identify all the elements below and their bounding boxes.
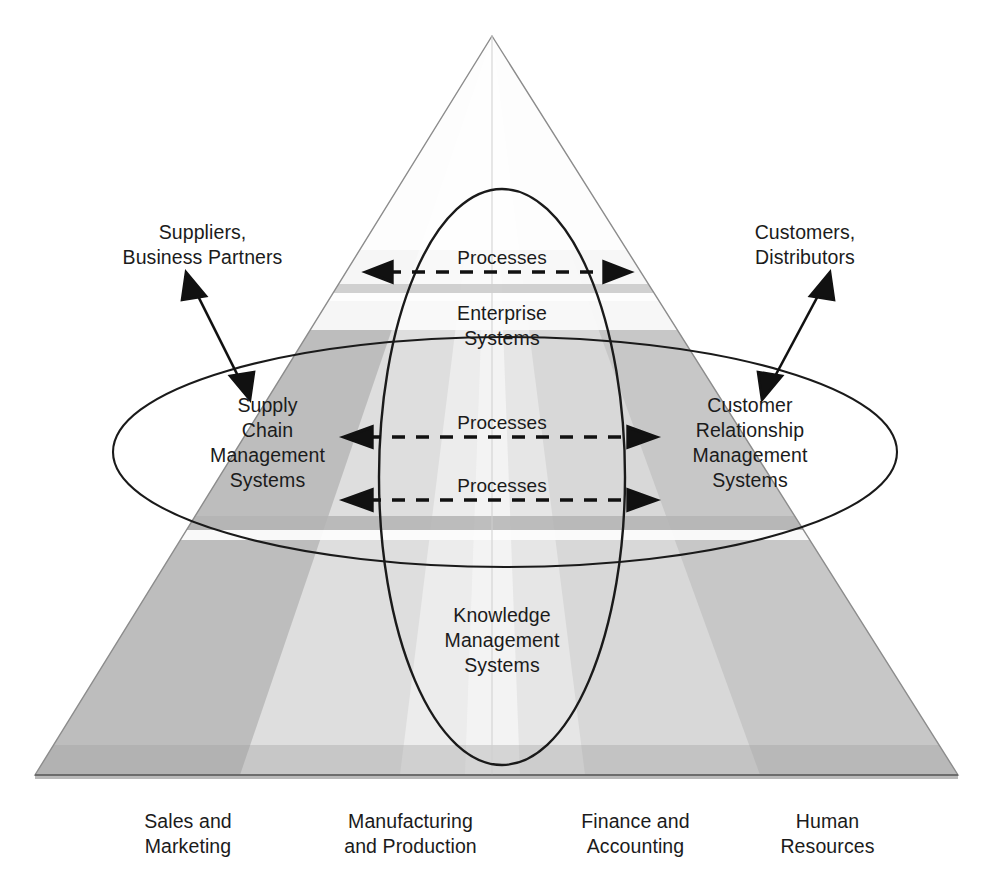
label-enterprise-systems: Enterprise Systems [412, 301, 592, 351]
label-processes-lower: Processes [427, 475, 577, 497]
label-manufacturing-and-production: Manufacturing and Production [308, 809, 513, 859]
label-sales-and-marketing: Sales and Marketing [98, 809, 278, 859]
label-customer-relationship-management-systems: Customer Relationship Management Systems [655, 393, 845, 493]
label-supply-chain-management-systems: Supply Chain Management Systems [180, 393, 355, 493]
supplier-connector [196, 292, 240, 380]
label-human-resources: Human Resources [745, 809, 910, 859]
label-processes-top: Processes [427, 247, 577, 269]
diagram-canvas: Suppliers, Business Partners Customers, … [0, 0, 993, 892]
label-knowledge-management-systems: Knowledge Management Systems [407, 603, 597, 678]
label-suppliers-business-partners: Suppliers, Business Partners [95, 220, 310, 270]
customer-connector [773, 292, 820, 380]
label-finance-and-accounting: Finance and Accounting [548, 809, 723, 859]
label-processes-middle: Processes [427, 412, 577, 434]
arrow-head-up-right [810, 272, 834, 300]
arrow-head-up-left [182, 272, 206, 300]
label-customers-distributors: Customers, Distributors [700, 220, 910, 270]
